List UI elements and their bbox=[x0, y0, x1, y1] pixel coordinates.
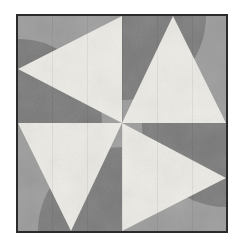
screenshot-canvas bbox=[0, 0, 243, 249]
quilt-block-artwork bbox=[18, 16, 226, 231]
quilt-block-frame bbox=[16, 14, 228, 233]
